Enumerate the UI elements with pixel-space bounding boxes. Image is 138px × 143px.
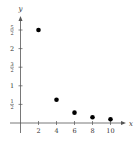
x-tick-label: 6	[72, 127, 76, 135]
x-tick-label: 4	[54, 127, 58, 135]
data-point	[36, 28, 41, 33]
data-point	[90, 115, 95, 120]
x-tick-label: 2	[36, 127, 40, 135]
y-axis-arrow-icon	[19, 16, 23, 21]
data-point	[54, 97, 59, 102]
x-tick-label: 8	[90, 127, 94, 135]
y-tick-label-denominator: 2	[10, 30, 13, 36]
y-tick-label: 2	[10, 45, 14, 53]
x-tick-label: 10	[106, 127, 114, 135]
y-axis-label: y	[18, 5, 24, 13]
x-axis-arrow-icon	[121, 121, 126, 125]
data-points	[36, 28, 113, 122]
data-point	[72, 110, 77, 115]
axes: xy	[10, 5, 133, 133]
ticks: 24681012132252	[10, 24, 115, 135]
y-tick-label-denominator: 2	[10, 67, 13, 73]
x-axis-label: x	[129, 120, 133, 128]
data-point	[108, 117, 113, 122]
scatter-chart: xy 24681012132252	[0, 0, 138, 143]
y-tick-label-denominator: 2	[10, 104, 13, 110]
y-tick-label: 1	[10, 82, 14, 90]
